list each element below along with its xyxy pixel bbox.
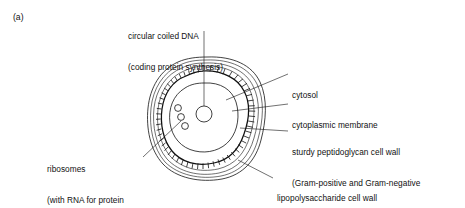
panel-letter: (a) [13, 12, 24, 22]
figure-panel-a: (a) circular coiled DNA (coding protein … [0, 0, 465, 208]
ribosome-circle [175, 105, 182, 112]
leader-line-peptidoglycan [240, 128, 288, 131]
label-ribosomes: ribosomes (with RNA for protein synthesi… [47, 143, 124, 208]
label-peptidoglycan-line1: sturdy peptidoglycan cell wall [292, 147, 420, 157]
ribosomes-group [175, 105, 189, 130]
label-circular-dna: circular coiled DNA (coding protein synt… [128, 10, 223, 93]
label-circular-dna-line2: (coding protein synthesis) [128, 62, 223, 72]
label-lipopolysaccharide: lipopolysaccharide cell wall (Gram-negat… [277, 172, 387, 208]
label-lipopolysaccharide-line1: lipopolysaccharide cell wall [277, 193, 387, 203]
ribosome-circle [182, 123, 189, 130]
circular-dna-nucleoid [196, 106, 212, 122]
label-ribosomes-line2: (with RNA for protein [47, 195, 124, 205]
label-circular-dna-line1: circular coiled DNA [128, 31, 223, 41]
leader-line-cytoplasmic-membrane [232, 104, 288, 111]
label-ribosomes-line1: ribosomes [47, 164, 124, 174]
ribosome-circle [178, 114, 185, 121]
